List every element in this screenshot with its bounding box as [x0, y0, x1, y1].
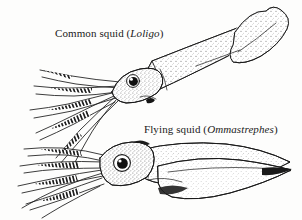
label-flying-squid-prefix: Flying squid ( [144, 123, 207, 135]
label-flying-squid: Flying squid (Ommastrephes) [144, 123, 278, 135]
label-common-squid-suffix: ) [160, 27, 164, 39]
label-flying-squid-genus: Ommastrephes [207, 123, 274, 135]
ommastrephes-eye [114, 155, 131, 172]
label-common-squid-genus: Loligo [130, 27, 159, 39]
label-common-squid-prefix: Common squid ( [55, 27, 130, 39]
label-common-squid: Common squid (Loligo) [55, 27, 163, 39]
ommastrephes-arms [18, 148, 108, 218]
label-flying-squid-suffix: ) [274, 123, 278, 135]
squid-comparison-figure: Common squid (Loligo) Flying squid (Omma… [0, 0, 302, 220]
